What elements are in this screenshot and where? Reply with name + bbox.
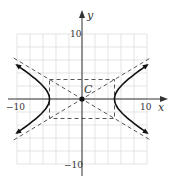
x-max-tick-label: 10 bbox=[140, 102, 152, 112]
center-point bbox=[79, 96, 84, 101]
x-min-tick-label: −10 bbox=[6, 102, 25, 112]
y-axis-arrow-icon bbox=[79, 10, 85, 18]
x-axis-label: x bbox=[158, 101, 165, 114]
y-min-tick-label: −10 bbox=[64, 160, 83, 170]
center-label: C bbox=[84, 83, 93, 96]
hyperbola-plot: C x y −10 10 10 −10 bbox=[0, 0, 172, 181]
y-max-tick-label: 10 bbox=[70, 29, 82, 39]
y-axis-label: y bbox=[86, 9, 94, 22]
